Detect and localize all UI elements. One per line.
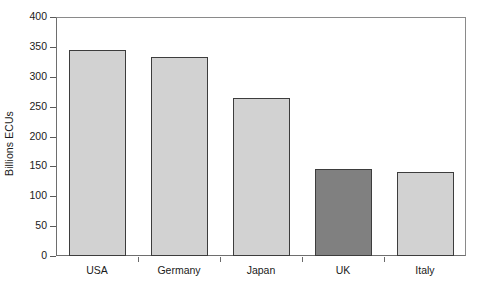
y-axis-tick: 200 bbox=[0, 137, 56, 138]
bar-slot bbox=[315, 17, 372, 256]
x-axis-label-japan: Japan bbox=[220, 264, 302, 276]
bar-slot bbox=[151, 17, 208, 256]
bar-slot bbox=[233, 17, 290, 256]
y-axis-tick-label: 200 bbox=[29, 130, 47, 142]
y-axis-tick-label: 150 bbox=[29, 159, 47, 171]
x-axis-tick-mark bbox=[138, 257, 139, 262]
y-axis-tick-label: 250 bbox=[29, 100, 47, 112]
x-axis-label-italy: Italy bbox=[384, 264, 466, 276]
y-axis-tick-label: 400 bbox=[29, 10, 47, 22]
y-axis-tick: 300 bbox=[0, 77, 56, 78]
y-axis-tick: 100 bbox=[0, 196, 56, 197]
x-axis-label-germany: Germany bbox=[138, 264, 220, 276]
y-axis-tick: 50 bbox=[0, 226, 56, 227]
bar-germany[interactable] bbox=[151, 57, 208, 256]
x-axis-tick-mark bbox=[220, 257, 221, 262]
y-axis-title: Billions ECUs bbox=[0, 0, 18, 287]
y-axis-tick-label: 350 bbox=[29, 40, 47, 52]
x-axis-label-usa: USA bbox=[56, 264, 138, 276]
bar-chart: Billions ECUs 050100150200250300350400 U… bbox=[0, 0, 480, 287]
bar-slot bbox=[397, 17, 454, 256]
y-axis-tick: 250 bbox=[0, 107, 56, 108]
bar-uk[interactable] bbox=[315, 169, 372, 256]
x-axis-label-uk: UK bbox=[302, 264, 384, 276]
bars-container bbox=[56, 17, 466, 256]
y-axis-tick: 400 bbox=[0, 17, 56, 18]
bar-usa[interactable] bbox=[69, 50, 126, 256]
y-axis-tick: 150 bbox=[0, 166, 56, 167]
y-axis-tick-mark bbox=[50, 256, 56, 257]
y-axis-tick-label: 300 bbox=[29, 70, 47, 82]
y-axis-tick: 350 bbox=[0, 47, 56, 48]
bar-italy[interactable] bbox=[397, 172, 454, 256]
y-axis-tick-label: 0 bbox=[41, 249, 47, 261]
bar-japan[interactable] bbox=[233, 98, 290, 256]
bar-slot bbox=[69, 17, 126, 256]
y-axis-tick-label: 100 bbox=[29, 189, 47, 201]
x-axis-tick-mark bbox=[302, 257, 303, 262]
y-axis-tick: 0 bbox=[0, 256, 56, 257]
x-axis-tick-mark bbox=[384, 257, 385, 262]
y-axis-tick-label: 50 bbox=[35, 219, 47, 231]
